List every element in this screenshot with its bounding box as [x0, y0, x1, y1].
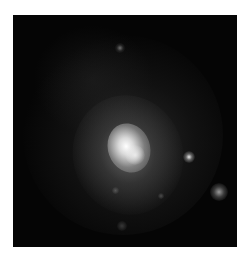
inner-halo	[59, 83, 196, 227]
point-source	[210, 183, 228, 201]
point-source	[115, 43, 125, 53]
point-source	[112, 187, 119, 194]
point-source	[117, 221, 127, 231]
galaxy-image	[13, 15, 237, 247]
galaxy-core	[101, 117, 158, 178]
galaxy-core-knot	[125, 145, 145, 165]
point-source	[158, 193, 164, 199]
outer-halo	[23, 35, 223, 235]
outer-halo-northeast	[33, 25, 153, 135]
point-source	[183, 151, 195, 163]
